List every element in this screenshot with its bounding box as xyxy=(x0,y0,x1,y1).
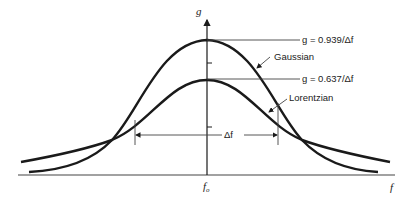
gaussian-curve xyxy=(29,40,378,172)
lorentzian-curve xyxy=(21,80,390,162)
center-frequency-label: fo xyxy=(203,180,210,194)
lorentzian-peak-label: g = 0.637/Δf xyxy=(302,73,354,84)
gaussian-peak-label: g = 0.939/Δf xyxy=(302,34,354,45)
lineshape-diagram: g g = 0.939/Δf Gaussian g = 0.637/Δf Lor… xyxy=(0,0,407,204)
f-axis-label: f xyxy=(390,181,395,193)
delta-f-label: Δf xyxy=(224,129,233,140)
gaussian-pointer xyxy=(257,57,270,68)
g-axis-label: g xyxy=(196,5,202,17)
gaussian-label: Gaussian xyxy=(274,51,314,62)
lorentzian-label: Lorentzian xyxy=(289,92,333,103)
